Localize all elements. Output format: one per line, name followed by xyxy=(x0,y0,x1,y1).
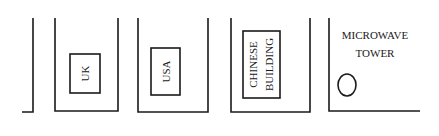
diagram-canvas: UK USA CHINESE BUILDING MICROWAVE TOWER xyxy=(0,0,439,136)
microwave-label-line1: MICROWAVE xyxy=(342,29,409,41)
uk-label: UK xyxy=(79,66,91,82)
uk-outer-wall xyxy=(55,18,118,111)
microwave-label-line2: TOWER xyxy=(356,47,396,59)
microwave-tower-compartment: MICROWAVE TOWER xyxy=(329,18,420,111)
usa-compartment: USA xyxy=(138,18,208,112)
chinese-label-line2: BUILDING xyxy=(263,38,275,91)
usa-label: USA xyxy=(160,60,172,82)
chinese-label-line1: CHINESE xyxy=(247,41,259,88)
uk-compartment: UK xyxy=(55,18,118,111)
partial-left-compartment xyxy=(22,18,33,112)
usa-outer-wall xyxy=(138,18,208,112)
chinese-building-compartment: CHINESE BUILDING xyxy=(231,18,310,112)
partial-wall xyxy=(22,18,33,112)
tower-circle-icon xyxy=(338,74,356,96)
